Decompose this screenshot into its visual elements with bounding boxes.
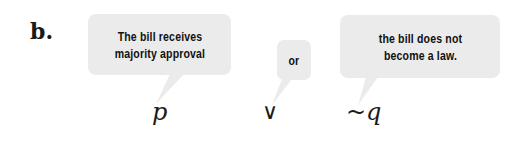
symbol-or: ∨ xyxy=(262,99,278,124)
speech-bubble-not-q: the bill does not become a law. xyxy=(340,15,500,78)
part-label: b. xyxy=(30,18,53,44)
symbol-not-q: ~q xyxy=(346,98,381,126)
bubble-p-text: The bill receives majority approval xyxy=(114,28,204,62)
speech-bubble-or: or xyxy=(277,40,311,80)
symbol-p: p xyxy=(152,98,167,126)
speech-bubble-p: The bill receives majority approval xyxy=(88,14,231,75)
bubble-or-text: or xyxy=(289,52,300,69)
bubble-not-q-text: the bill does not become a law. xyxy=(378,30,461,64)
